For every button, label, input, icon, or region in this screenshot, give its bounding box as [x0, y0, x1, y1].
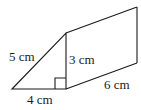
height-label: 3 cm [69, 52, 95, 67]
prism-diagram: 5 cm 3 cm 4 cm 6 cm [0, 0, 141, 110]
base-label: 4 cm [27, 92, 53, 107]
hypotenuse-label: 5 cm [9, 49, 35, 64]
top-edge [66, 7, 137, 33]
length-label: 6 cm [104, 77, 130, 92]
right-angle-marker [55, 78, 66, 89]
